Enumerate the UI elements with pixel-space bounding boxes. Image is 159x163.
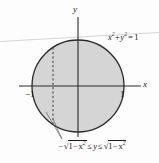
equation-equals-sign: = bbox=[127, 32, 134, 42]
x-tick-label-negative-one: −1 bbox=[25, 90, 35, 99]
radical-left-body: 1−x2 bbox=[68, 140, 87, 150]
y-axis-label: y bbox=[73, 5, 77, 14]
circle-equation-label: x2+y2=1 bbox=[108, 33, 139, 42]
equation-term-y-squared: y2 bbox=[120, 33, 127, 42]
inequality-second-le: ≤ bbox=[97, 141, 104, 151]
diagram-canvas bbox=[0, 0, 159, 163]
x-tick-label-positive-one: 1 bbox=[120, 90, 125, 99]
region-inequality-label: −√1−x2≤y≤√1−x2 bbox=[58, 140, 126, 150]
math-figure-unit-disk: y x −1 1 x2+y2=1 −√1−x2≤y≤√1−x2 bbox=[0, 0, 159, 163]
radical-right-exponent: 2 bbox=[123, 140, 126, 146]
radical-right-one: 1 bbox=[108, 141, 112, 151]
x-axis-label: x bbox=[143, 80, 147, 89]
radical-left-exponent: 2 bbox=[83, 140, 86, 146]
radical-left: √1−x2 bbox=[64, 140, 87, 150]
equation-right-hand-side: 1 bbox=[134, 32, 139, 42]
radical-right: √1−x2 bbox=[104, 140, 127, 150]
radical-right-body: 1−x2 bbox=[108, 140, 127, 150]
equation-term-x-squared: x2 bbox=[108, 33, 115, 42]
